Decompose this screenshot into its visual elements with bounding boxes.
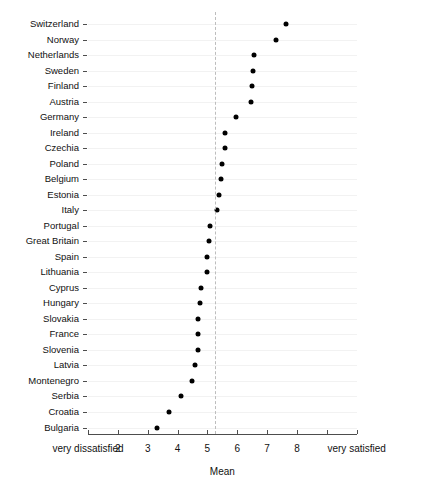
gridline (88, 334, 357, 335)
y-axis-label-lithuania: Lithuania (40, 267, 79, 277)
y-axis-label-austria: Austria (49, 97, 79, 107)
x-axis-tick (178, 430, 179, 434)
x-axis-tick-label: 5 (205, 443, 211, 454)
y-axis-tick (83, 40, 87, 41)
y-axis-label-estonia: Estonia (47, 190, 79, 200)
gridline (88, 195, 357, 196)
data-point (197, 301, 202, 306)
y-axis-label-italy: Italy (62, 205, 79, 215)
x-axis-tick-label: very satisfied (327, 443, 385, 454)
x-axis-tick-label: 3 (145, 443, 151, 454)
x-axis-line (88, 434, 357, 435)
data-point (250, 84, 255, 89)
data-point (274, 37, 279, 42)
data-point (178, 394, 183, 399)
x-axis-tick-label: 8 (294, 443, 300, 454)
data-point (233, 115, 238, 120)
gridline (88, 55, 357, 56)
gridline (88, 117, 357, 118)
y-axis-label-hungary: Hungary (43, 298, 79, 308)
y-axis-tick (83, 102, 87, 103)
x-axis-tick (267, 430, 268, 434)
y-axis-tick (83, 350, 87, 351)
y-axis-tick (83, 117, 87, 118)
y-axis-label-great-britain: Great Britain (26, 236, 79, 246)
y-axis-tick (83, 365, 87, 366)
data-point (195, 332, 200, 337)
x-axis-tick (148, 430, 149, 434)
data-point (223, 130, 228, 135)
y-axis-tick (83, 412, 87, 413)
y-axis-label-slovenia: Slovenia (43, 345, 79, 355)
y-axis-label-slovakia: Slovakia (43, 314, 79, 324)
gridline (88, 40, 357, 41)
y-axis-label-sweden: Sweden (45, 66, 79, 76)
gridline (88, 428, 357, 429)
y-axis-tick (83, 319, 87, 320)
y-axis-label-serbia: Serbia (52, 391, 79, 401)
x-axis-tick (237, 430, 238, 434)
y-axis-label-bulgaria: Bulgaria (44, 423, 79, 433)
y-axis-tick (83, 272, 87, 273)
y-axis-tick (83, 226, 87, 227)
data-point (249, 99, 254, 104)
data-point (196, 316, 201, 321)
y-axis-tick (83, 381, 87, 382)
data-point (190, 378, 195, 383)
y-axis-tick (83, 195, 87, 196)
gridline (88, 288, 357, 289)
y-axis-label-switzerland: Switzerland (30, 19, 79, 29)
gridline (88, 210, 357, 211)
data-point (205, 254, 210, 259)
y-axis-label-montenegro: Montenegro (28, 376, 79, 386)
y-axis-tick (83, 164, 87, 165)
data-point (195, 347, 200, 352)
data-point (222, 146, 227, 151)
data-point (251, 68, 256, 73)
y-axis-tick (83, 241, 87, 242)
data-point (166, 410, 171, 415)
y-axis-tick (83, 55, 87, 56)
data-point (219, 177, 224, 182)
y-axis-label-czechia: Czechia (45, 143, 79, 153)
y-axis-tick (83, 210, 87, 211)
data-point (204, 270, 209, 275)
gridline (88, 365, 357, 366)
gridline (88, 71, 357, 72)
y-axis-tick (83, 179, 87, 180)
y-axis-tick (83, 288, 87, 289)
data-point (198, 285, 203, 290)
gridline (88, 303, 357, 304)
y-axis-label-germany: Germany (40, 112, 79, 122)
y-axis-tick (83, 428, 87, 429)
y-axis-tick (83, 396, 87, 397)
y-axis-tick (83, 133, 87, 134)
data-point (193, 363, 198, 368)
gridline (88, 257, 357, 258)
data-point (283, 22, 288, 27)
y-axis-label-norway: Norway (47, 35, 79, 45)
y-axis-label-belgium: Belgium (45, 174, 79, 184)
y-axis-label-france: France (49, 329, 79, 339)
data-point (208, 223, 213, 228)
reference-line (215, 12, 216, 434)
y-axis-tick (83, 303, 87, 304)
y-axis-tick (83, 86, 87, 87)
gridline (88, 102, 357, 103)
data-point (154, 425, 159, 430)
y-axis-tick (83, 257, 87, 258)
y-axis-label-netherlands: Netherlands (28, 50, 79, 60)
x-axis-tick-label: 7 (264, 443, 270, 454)
x-axis-tick (297, 430, 298, 434)
x-axis-tick (118, 430, 119, 434)
x-axis-tick-label: 4 (175, 443, 181, 454)
x-axis-tick-label: very dissatisfied (52, 443, 123, 454)
x-axis-tick (357, 430, 358, 434)
data-point (207, 239, 212, 244)
x-axis-tick-label: 2 (115, 443, 121, 454)
y-axis-label-cyprus: Cyprus (49, 283, 79, 293)
y-axis-label-poland: Poland (49, 159, 79, 169)
gridline (88, 241, 357, 242)
y-axis-tick (83, 71, 87, 72)
y-axis-label-finland: Finland (48, 81, 79, 91)
